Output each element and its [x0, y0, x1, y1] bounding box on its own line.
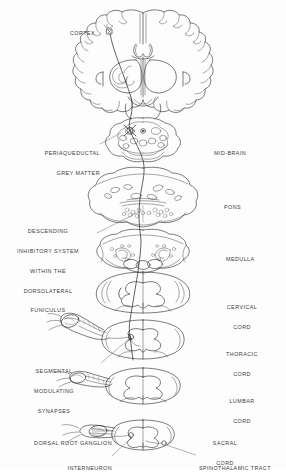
label-cortex: CORTEX	[70, 17, 95, 50]
label-descending-inhibitory-system-line-2: WITHIN THE	[0, 268, 96, 275]
label-interneuron: INTERNEURON	[0, 452, 112, 474]
leader-lines	[92, 24, 196, 456]
label-sacral-cord-line-0: SACRAL	[200, 440, 250, 447]
section-cervical-cord	[96, 272, 189, 313]
label-lumbar-cord-line-1: CORD	[213, 418, 271, 425]
label-pons-line-0: PONS	[224, 204, 241, 211]
label-spinothalamic-tract: SPINOTHALAMIC TRACT	[199, 452, 271, 474]
label-spinothalamic-tract-line-0: SPINOTHALAMIC TRACT	[199, 465, 271, 472]
label-cervical-cord-line-0: CERVICAL	[213, 304, 271, 311]
section-pons	[88, 167, 198, 227]
label-interneuron-line-0: INTERNEURON	[0, 465, 112, 472]
label-lumbar-cord-line-0: LUMBAR	[213, 398, 271, 405]
label-descending-inhibitory-system-line-4: FUNICULUS	[0, 307, 96, 314]
label-cortex-line-0: CORTEX	[70, 30, 95, 37]
label-medulla-line-0: MEDULLA	[226, 256, 255, 263]
label-descending-inhibitory-system-line-0: DESCENDING	[0, 228, 96, 235]
label-segmental-modulating-synapses-line-2: SYNAPSES	[8, 408, 100, 415]
label-thoracic-cord: THORACIC CORD	[213, 338, 271, 391]
label-segmental-modulating-synapses: SEGMENTAL MODULATING SYNAPSES	[8, 355, 100, 428]
section-medulla	[97, 229, 189, 273]
label-medulla: MEDULLA	[226, 243, 255, 276]
label-segmental-modulating-synapses-line-0: SEGMENTAL	[8, 368, 100, 375]
label-descending-inhibitory-system: DESCENDING INHIBITORY SYSTEM WITHIN THE …	[0, 215, 96, 327]
label-pons: PONS	[224, 191, 241, 224]
label-periaqueductal-grey-matter: PERIAQUEDUCTAL GREY MATTER	[0, 137, 100, 190]
label-dorsal-root-ganglion-line-0: DORSAL ROOT GANGLION	[0, 440, 112, 447]
label-cervical-cord-line-1: CORD	[213, 324, 271, 331]
label-segmental-modulating-synapses-line-1: MODULATING	[8, 388, 100, 395]
label-descending-inhibitory-system-line-1: INHIBITORY SYSTEM	[0, 248, 96, 255]
label-periaqueductal-grey-matter-line-0: PERIAQUEDUCTAL	[0, 150, 100, 157]
section-midbrain	[106, 118, 181, 162]
label-mid-brain-line-0: MID-BRAIN	[214, 150, 246, 157]
label-descending-inhibitory-system-line-3: DORSOLATERAL	[0, 288, 96, 295]
label-thoracic-cord-line-1: CORD	[213, 371, 271, 378]
label-thoracic-cord-line-0: THORACIC	[213, 351, 271, 358]
label-mid-brain: MID-BRAIN	[214, 137, 246, 170]
label-cervical-cord: CERVICAL CORD	[213, 291, 271, 344]
label-periaqueductal-grey-matter-line-1: GREY MATTER	[0, 170, 100, 177]
